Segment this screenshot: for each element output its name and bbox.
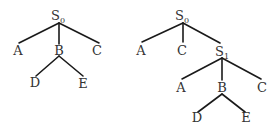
- node-d: D: [30, 75, 40, 90]
- node-c: C: [177, 43, 187, 58]
- edge-s0-a: [19, 23, 59, 43]
- node-s1: S1: [215, 44, 229, 61]
- node-a: A: [12, 43, 23, 58]
- edge-b-e: [59, 56, 83, 76]
- node-e: E: [241, 110, 251, 125]
- node-a2: A: [175, 80, 186, 95]
- node-s0: S0: [175, 8, 189, 25]
- parse-tree-diagram: S0 A B C D E S0 A C S1 A B C D E: [0, 0, 278, 128]
- edge-s0-s1: [183, 23, 220, 43]
- edge-s1-a: [182, 58, 222, 79]
- edge-s0-a: [142, 23, 183, 42]
- node-b: B: [54, 43, 64, 58]
- edge-s1-c: [222, 58, 261, 79]
- node-b2: B: [217, 80, 227, 95]
- node-e: E: [78, 76, 88, 91]
- edge-b-d: [36, 56, 59, 76]
- node-d: D: [192, 110, 202, 125]
- right-tree: S0 A C S1 A B C D E: [135, 8, 267, 125]
- node-c: C: [92, 43, 102, 58]
- edge-s0-c: [59, 23, 99, 43]
- node-s0: S0: [51, 8, 65, 25]
- node-c2: C: [257, 80, 267, 95]
- node-a: A: [135, 43, 146, 58]
- left-tree: S0 A B C D E: [12, 8, 102, 91]
